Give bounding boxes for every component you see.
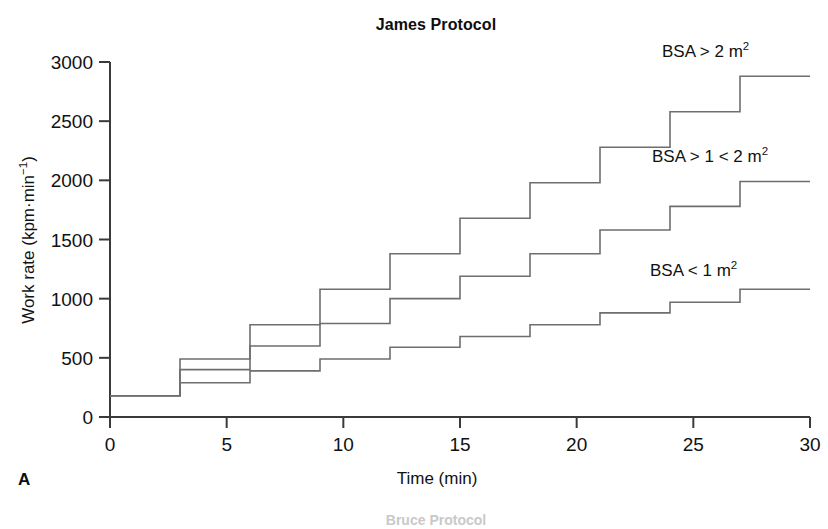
- series-label-exponent: 2: [743, 40, 749, 52]
- y-axis-tick-label: 2000: [51, 170, 93, 191]
- step-series-line-2: [110, 182, 810, 396]
- series-group: [110, 76, 810, 396]
- next-panel-title-text: Bruce Protocol: [386, 512, 486, 528]
- x-axis-tick-label: 30: [799, 434, 820, 455]
- step-series-line-3: [110, 289, 810, 396]
- y-axis-title-close: ): [19, 156, 38, 162]
- x-axis-tick-label: 10: [333, 434, 354, 455]
- next-panel-title-partial: Bruce Protocol: [0, 512, 828, 528]
- y-axis-tick-label: 500: [61, 348, 93, 369]
- chart-plot-area: 050010001500200025003000051015202530 BSA…: [0, 0, 828, 529]
- series-label-2: BSA > 1 < 2 m2: [652, 145, 768, 166]
- series-label-text: BSA > 2 m: [662, 42, 743, 61]
- x-axis-title: Time (min): [397, 469, 478, 488]
- series-label-3: BSA < 1 m2: [650, 259, 737, 280]
- series-label-exponent: 2: [731, 259, 737, 271]
- x-axis-tick-label: 0: [105, 434, 116, 455]
- x-axis-tick-label: 25: [683, 434, 704, 455]
- y-axis-tick-label: 1500: [51, 230, 93, 251]
- y-axis-tick-label: 3000: [51, 52, 93, 73]
- panel-letter: A: [18, 470, 30, 490]
- y-axis-title-base: Work rate (kpm·min: [19, 175, 38, 324]
- y-axis-tick-label: 2500: [51, 111, 93, 132]
- figure-panel-a: James Protocol 0500100015002000250030000…: [0, 0, 828, 529]
- series-label-1: BSA > 2 m2: [662, 40, 749, 61]
- y-axis-title: Work rate (kpm·min−1): [17, 156, 38, 324]
- series-label-exponent: 2: [762, 145, 768, 157]
- series-label-text: BSA > 1 < 2 m: [652, 147, 762, 166]
- x-axis-tick-label: 20: [566, 434, 587, 455]
- x-axis-tick-label: 5: [221, 434, 232, 455]
- y-axis-tick-label: 1000: [51, 289, 93, 310]
- x-axis-tick-label: 15: [449, 434, 470, 455]
- axis-titles-group: Time (min)Work rate (kpm·min−1): [17, 156, 477, 488]
- series-label-text: BSA < 1 m: [650, 261, 731, 280]
- y-axis-title-exponent: −1: [17, 162, 29, 175]
- y-axis-tick-label: 0: [82, 407, 93, 428]
